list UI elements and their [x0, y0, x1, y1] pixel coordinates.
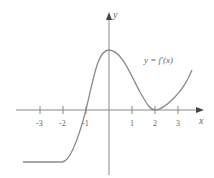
tick-label: 1: [130, 119, 134, 128]
graph: -3 -2 -1 1 2 3 x y y = f′(x): [0, 0, 214, 178]
y-axis-label: y: [112, 9, 118, 20]
derivative-curve: [23, 50, 192, 162]
tick-label: 2: [153, 119, 157, 128]
y-axis-arrow-icon: [106, 12, 112, 20]
tick-label: -2: [59, 119, 66, 128]
x-axis-label: x: [198, 115, 204, 126]
tick-label: -3: [36, 119, 43, 128]
tick-label: 3: [176, 119, 180, 128]
curve-label: y = f′(x): [143, 55, 173, 65]
x-axis-arrow-icon: [196, 107, 204, 113]
